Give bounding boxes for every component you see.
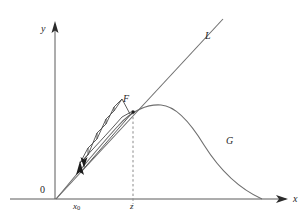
curve-g-group xyxy=(56,105,262,199)
line-l-label: L xyxy=(205,31,211,41)
cobweb-staircase xyxy=(80,99,132,173)
figure-canvas: y x 0 L G F x0 z xyxy=(0,0,308,222)
axes-group xyxy=(10,21,288,203)
origin-label: 0 xyxy=(40,185,45,195)
fixed-point-f-marker xyxy=(131,110,135,114)
fixed-point-f-label: F xyxy=(123,94,129,104)
cobweb-cell-5 xyxy=(114,99,122,111)
x0-tick-subscript: 0 xyxy=(77,204,80,211)
curve-g-path xyxy=(56,105,262,199)
diagram-svg xyxy=(0,0,308,222)
z-tick-label: z xyxy=(130,202,134,211)
x0-tick-label: x0 xyxy=(73,202,80,212)
cobweb-cell-4 xyxy=(106,107,114,124)
x-axis-label: x xyxy=(293,194,297,204)
curve-g-label: G xyxy=(226,136,233,146)
y-axis-label: y xyxy=(41,24,45,34)
